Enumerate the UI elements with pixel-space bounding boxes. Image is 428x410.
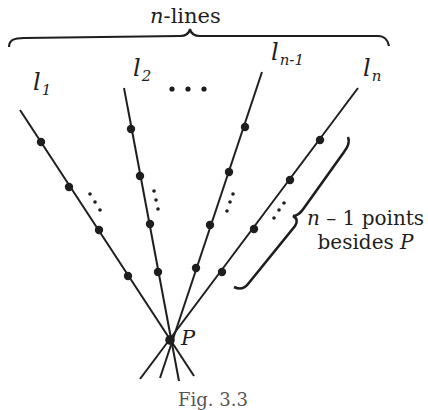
- label-p: P: [181, 326, 195, 350]
- label-ln-1: ln-1: [271, 38, 304, 66]
- bracket-note: n – 1 points besides P: [307, 206, 424, 254]
- points: [37, 123, 324, 345]
- top-brace: [9, 29, 389, 47]
- point-p: [165, 335, 175, 345]
- figure-caption: Fig. 3.3: [178, 389, 248, 410]
- label-l1: l1: [33, 68, 51, 96]
- between-lines-dots: [169, 86, 206, 91]
- label-ln: ln: [363, 54, 381, 82]
- label-l2: l2: [133, 54, 151, 82]
- bracket-note-line1: n – 1 points: [307, 206, 424, 230]
- ellipsis-dots: [88, 189, 286, 220]
- n-lines-label: n-lines: [150, 4, 221, 28]
- bracket-note-line2: besides P: [307, 230, 424, 254]
